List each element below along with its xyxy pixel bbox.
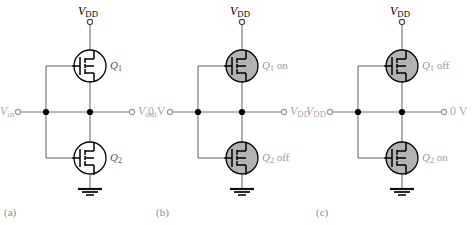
input-label: Vin	[0, 105, 14, 119]
input-label: 0 V	[148, 105, 165, 119]
output-terminal	[129, 109, 134, 114]
output-terminal	[281, 109, 286, 114]
ground-symbol	[230, 189, 254, 195]
vdd-supply-label: VDD	[230, 5, 250, 19]
vdd-terminal	[239, 19, 244, 24]
mosfet-q1	[224, 50, 258, 82]
input-node-dot	[355, 109, 361, 115]
mosfet-q1	[72, 50, 106, 82]
panel-a-schematic	[0, 0, 160, 225]
cmos-inverter-figure: VDD Vin Vout Q1 Q2 (a)	[0, 0, 472, 225]
q2-label: Q2 off	[262, 152, 290, 165]
input-terminal	[167, 109, 172, 114]
output-node-dot	[87, 109, 93, 115]
output-node-dot	[399, 109, 405, 115]
mosfet-q1	[384, 50, 418, 82]
q2-label: Q2 on	[422, 152, 448, 165]
mosfet-q2	[384, 142, 418, 175]
vdd-terminal	[87, 19, 92, 24]
panel-a-caption: (a)	[4, 207, 16, 218]
panel-c: VDD VDD 0 V Q1 off Q2 on (c)	[312, 0, 472, 225]
q2-label: Q2	[110, 152, 122, 165]
mosfet-q2	[224, 142, 258, 175]
panel-c-caption: (c)	[316, 207, 328, 218]
output-node-dot	[239, 109, 245, 115]
ground-symbol	[390, 189, 414, 195]
panel-b-schematic	[152, 0, 312, 225]
ground-symbol	[78, 189, 102, 195]
output-terminal	[441, 109, 446, 114]
output-label: 0 V	[450, 105, 467, 119]
mosfet-q2	[72, 142, 106, 175]
panel-b: VDD 0 V VDD Q1 on Q2 off (b)	[152, 0, 312, 225]
vdd-supply-label: VDD	[390, 5, 410, 19]
input-label: VDD	[306, 105, 326, 119]
q1-label: Q1 on	[262, 60, 288, 73]
vdd-supply-label: VDD	[78, 5, 98, 19]
q1-label: Q1	[110, 60, 122, 73]
input-node-dot	[43, 109, 49, 115]
vdd-terminal	[399, 19, 404, 24]
panel-c-schematic	[312, 0, 472, 225]
input-terminal	[327, 109, 332, 114]
input-node-dot	[195, 109, 201, 115]
q1-label: Q1 off	[422, 60, 450, 73]
input-terminal	[15, 109, 20, 114]
panel-b-caption: (b)	[156, 207, 169, 218]
panel-a: VDD Vin Vout Q1 Q2 (a)	[0, 0, 160, 225]
